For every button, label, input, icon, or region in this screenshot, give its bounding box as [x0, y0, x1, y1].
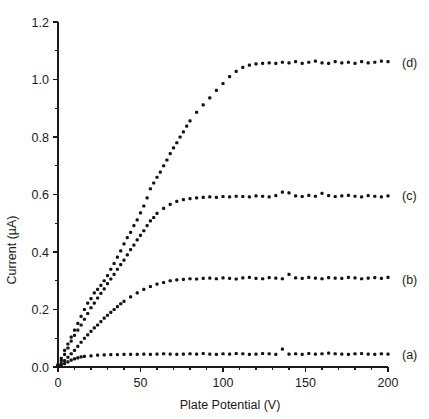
- data-point: [139, 234, 142, 237]
- data-point: [261, 352, 264, 355]
- data-point: [129, 248, 132, 251]
- y-axis: 0.00.20.40.60.81.01.2: [32, 16, 58, 375]
- data-point: [76, 329, 79, 332]
- scatter-chart-figure: 0.00.20.40.60.81.01.2 050100150200 (a)(b…: [0, 0, 429, 419]
- data-point: [182, 130, 185, 133]
- data-point: [76, 356, 79, 359]
- data-point: [340, 194, 343, 197]
- data-point: [261, 277, 264, 280]
- data-point: [360, 195, 363, 198]
- data-point: [373, 195, 376, 198]
- y-tick-label: 0.8: [32, 131, 49, 145]
- data-point: [208, 277, 211, 280]
- data-point: [380, 195, 383, 198]
- data-point: [63, 353, 66, 356]
- x-axis-title: Plate Potential (V): [180, 398, 281, 412]
- data-point: [235, 277, 238, 280]
- data-point: [307, 352, 310, 355]
- data-point: [162, 207, 165, 210]
- data-point: [149, 285, 152, 288]
- data-point: [80, 315, 83, 318]
- data-point: [56, 363, 59, 366]
- data-point: [294, 276, 297, 279]
- data-point: [215, 277, 218, 280]
- data-point: [109, 353, 112, 356]
- data-point: [281, 191, 284, 194]
- data-point: [162, 164, 165, 167]
- data-point: [109, 277, 112, 280]
- data-point: [353, 276, 356, 279]
- y-axis-title: Current (µA): [5, 215, 19, 284]
- data-point: [188, 277, 191, 280]
- data-point: [274, 62, 277, 65]
- series-label-c: (c): [402, 189, 417, 203]
- data-point: [116, 353, 119, 356]
- data-point: [287, 61, 290, 64]
- data-point: [274, 277, 277, 280]
- data-point: [386, 60, 389, 63]
- data-point: [380, 277, 383, 280]
- data-point: [89, 354, 92, 357]
- data-point: [89, 306, 92, 309]
- data-point: [175, 141, 178, 144]
- data-point: [103, 317, 106, 320]
- data-point: [99, 284, 102, 287]
- data-point: [73, 329, 76, 332]
- data-point: [83, 308, 86, 311]
- data-point: [314, 277, 317, 280]
- data-point: [165, 158, 168, 161]
- y-tick-label: 0.6: [32, 188, 49, 202]
- data-point: [386, 194, 389, 197]
- data-point: [109, 311, 112, 314]
- data-point: [327, 276, 330, 279]
- data-point: [287, 273, 290, 276]
- data-point: [175, 200, 178, 203]
- series-d: [56, 60, 389, 367]
- data-point: [347, 61, 350, 64]
- data-point: [185, 124, 188, 127]
- data-point: [96, 288, 99, 291]
- data-point: [307, 194, 310, 197]
- data-point: [301, 277, 304, 280]
- data-point: [241, 195, 244, 198]
- data-point: [142, 352, 145, 355]
- data-point: [294, 60, 297, 63]
- data-point: [254, 194, 257, 197]
- data-point: [314, 352, 317, 355]
- data-point: [83, 337, 86, 340]
- data-point: [83, 355, 86, 358]
- data-point: [109, 268, 112, 271]
- plot-canvas: 0.00.20.40.60.81.01.2 050100150200 (a)(b…: [0, 0, 429, 419]
- data-point: [119, 302, 122, 305]
- data-point: [320, 192, 323, 195]
- data-point: [119, 263, 122, 266]
- data-point: [380, 352, 383, 355]
- y-tick-label: 0.4: [32, 246, 49, 260]
- data-point: [287, 352, 290, 355]
- data-point: [169, 352, 172, 355]
- data-point: [248, 195, 251, 198]
- data-point: [274, 353, 277, 356]
- x-tick-label: 0: [55, 376, 62, 390]
- data-point: [353, 62, 356, 65]
- data-point: [360, 277, 363, 280]
- data-point: [93, 302, 96, 305]
- data-point: [360, 352, 363, 355]
- data-point: [241, 352, 244, 355]
- data-point: [129, 231, 132, 234]
- data-point: [136, 291, 139, 294]
- data-point: [142, 288, 145, 291]
- data-point: [221, 195, 224, 198]
- data-series-layer: [56, 60, 389, 369]
- data-point: [99, 292, 102, 295]
- data-point: [76, 345, 79, 348]
- data-point: [241, 276, 244, 279]
- data-point: [386, 276, 389, 279]
- x-tick-label: 100: [213, 376, 234, 390]
- series-a: [56, 348, 389, 368]
- data-point: [162, 352, 165, 355]
- data-point: [367, 352, 370, 355]
- x-tick-label: 200: [378, 376, 399, 390]
- data-point: [248, 353, 251, 356]
- data-point: [307, 61, 310, 64]
